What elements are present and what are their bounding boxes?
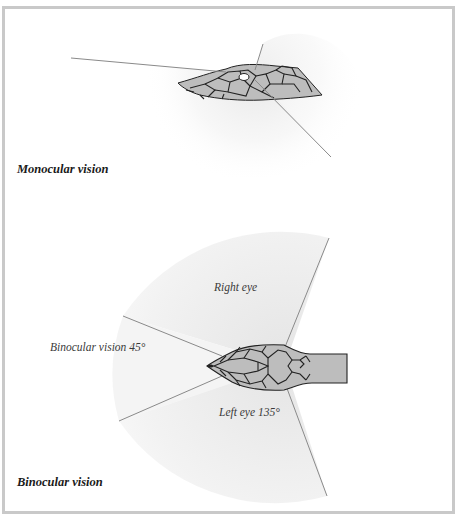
eye-icon — [239, 74, 249, 81]
binocular-caption: Binocular vision — [17, 475, 103, 490]
left-eye-label: Left eye 135° — [219, 406, 280, 418]
binocular-angle-label: Binocular vision 45° — [50, 341, 145, 353]
vision-diagram — [0, 0, 459, 523]
monocular-field — [71, 34, 363, 179]
right-eye-label: Right eye — [214, 281, 257, 293]
monocular-caption: Monocular vision — [17, 162, 108, 177]
